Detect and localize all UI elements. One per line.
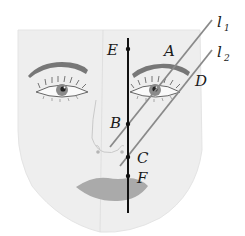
label-l1-subscript: 1 <box>224 23 230 33</box>
point-c <box>126 155 130 159</box>
label-c: C <box>137 149 149 167</box>
label-f: F <box>136 169 148 187</box>
nostril-left <box>96 150 100 154</box>
face-diagram: E B C F A D l 1 l 2 <box>0 0 245 236</box>
label-l2-subscript: 2 <box>223 53 230 63</box>
point-b <box>126 122 130 126</box>
label-a: A <box>162 42 175 60</box>
label-l2: l <box>217 43 222 61</box>
label-d: D <box>194 72 207 90</box>
label-e: E <box>106 41 118 59</box>
point-f <box>126 174 130 178</box>
label-l1: l <box>217 13 222 31</box>
label-b: B <box>109 114 121 132</box>
nostril-right <box>120 150 124 154</box>
point-e <box>126 47 130 51</box>
